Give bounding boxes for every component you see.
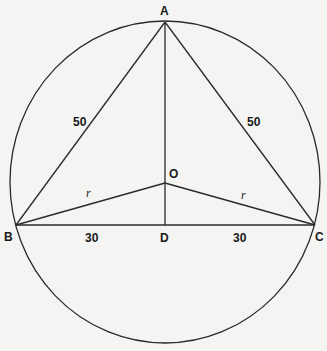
point-label-o: O [169,167,178,181]
length-label-ab: 50 [73,115,87,129]
segment-oc [165,183,315,225]
point-label-c: C [315,230,324,244]
point-label-b: B [4,230,13,244]
point-label-a: A [160,4,169,18]
segment-ac [165,22,315,225]
point-label-d: D [160,231,169,245]
length-label-ac: 50 [247,115,261,129]
length-label-bd: 30 [85,231,99,245]
diagram-canvas: A B C D O 50 50 30 30 r r [0,0,327,351]
length-label-dc: 30 [233,231,247,245]
length-label-ob: r [86,186,91,200]
length-label-oc: r [241,188,246,202]
